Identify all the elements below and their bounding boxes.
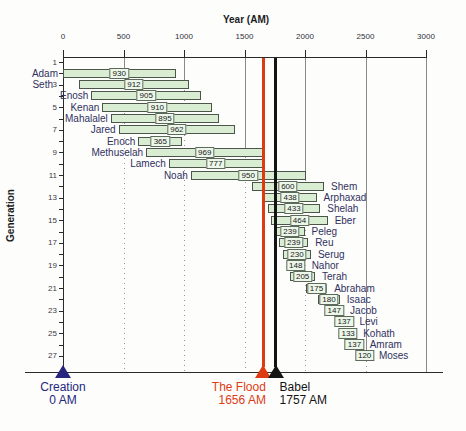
person-name-levi: Levi: [359, 316, 377, 327]
person-name-mahalalel: Mahalalel: [65, 113, 108, 124]
x-tick-label-1500: 1500: [225, 32, 265, 41]
gen-tick-label-19: 19: [33, 261, 57, 270]
person-name-moses: Moses: [379, 350, 408, 361]
person-lifespan-shem: 600: [278, 181, 297, 192]
creation-label: Creation0 AM: [23, 381, 103, 407]
x-tick-label-3000: 3000: [406, 32, 446, 41]
babel-line: [274, 58, 277, 367]
person-name-seth: Seth: [32, 79, 53, 90]
person-name-terah: Terah: [322, 271, 347, 282]
gen-tick-label-17: 17: [33, 238, 57, 247]
gen-tick-7: [59, 130, 63, 131]
gridline-dotted-1500: [245, 147, 246, 372]
gen-tick-label-7: 7: [33, 125, 57, 134]
gen-tick-19: [59, 265, 63, 266]
plot-area: 0500100015002000250030001357911131517192…: [0, 0, 466, 431]
person-name-amram: Amram: [370, 339, 402, 350]
person-name-reu: Reu: [315, 237, 333, 248]
gen-tick-label-23: 23: [33, 306, 57, 315]
x-tick-2000: [305, 50, 306, 58]
gen-tick-17: [59, 243, 63, 244]
gen-tick-label-5: 5: [33, 103, 57, 112]
gen-tick-label-1: 1: [33, 58, 57, 67]
person-name-abraham: Abraham: [334, 283, 375, 294]
babel-marker-triangle: [268, 365, 284, 378]
gen-tick-label-13: 13: [33, 193, 57, 202]
gen-tick-25: [59, 333, 63, 334]
person-name-jacob: Jacob: [350, 305, 377, 316]
gen-tick-11: [59, 175, 63, 176]
person-name-shem: Shem: [331, 181, 357, 192]
x-tick-label-1000: 1000: [164, 32, 204, 41]
the-flood-year-text: 1656 AM: [212, 394, 266, 407]
person-lifespan-seth: 912: [124, 79, 143, 90]
gen-tick-1: [59, 62, 63, 63]
y-axis-line: [63, 57, 64, 372]
gen-tick-15: [59, 220, 63, 221]
gen-tick-16: [59, 232, 63, 233]
person-name-lamech: Lamech: [130, 158, 166, 169]
gen-tick-14: [59, 209, 63, 210]
babel-label: Babel1757 AM: [280, 381, 327, 407]
person-lifespan-terah: 205: [293, 271, 312, 282]
x-tick-label-0: 0: [43, 32, 83, 41]
gridline-solid-3000: [426, 57, 427, 372]
person-name-enoch: Enoch: [107, 136, 135, 147]
x-tick-500: [124, 50, 125, 58]
person-lifespan-peleg: 239: [280, 226, 299, 237]
x-tick-label-2500: 2500: [346, 32, 386, 41]
gridline-solid-500: [124, 57, 125, 68]
gridline-solid-1000: [184, 57, 185, 80]
gen-tick-18: [59, 254, 63, 255]
gen-tick-6: [59, 119, 63, 120]
person-lifespan-arphaxad: 438: [280, 192, 299, 203]
person-name-methuselah: Methuselah: [91, 147, 143, 158]
person-name-jared: Jared: [91, 124, 116, 135]
person-lifespan-jared: 962: [167, 124, 186, 135]
person-name-peleg: Peleg: [312, 226, 338, 237]
the-flood-label: The Flood1656 AM: [212, 381, 266, 407]
person-lifespan-enosh: 905: [137, 90, 156, 101]
gen-tick-3: [59, 85, 63, 86]
person-lifespan-methuselah: 969: [195, 147, 214, 158]
gen-tick-13: [59, 198, 63, 199]
gen-tick-label-21: 21: [33, 284, 57, 293]
baseline: [25, 372, 443, 374]
lifespan-timeline-chart: Year (AM) Generation 0500100015002000250…: [0, 0, 466, 431]
person-name-kohath: Kohath: [363, 328, 395, 339]
person-name-adam: Adam: [32, 68, 58, 79]
person-name-noah: Noah: [164, 170, 188, 181]
person-lifespan-enoch: 365: [151, 136, 170, 147]
x-tick-2500: [366, 50, 367, 58]
gen-tick-26: [59, 345, 63, 346]
person-lifespan-adam: 930: [110, 68, 129, 79]
x-tick-label-2000: 2000: [285, 32, 325, 41]
the-flood-line: [262, 58, 265, 367]
gen-tick-label-27: 27: [33, 351, 57, 360]
person-lifespan-shelah: 433: [284, 203, 303, 214]
gen-tick-5: [59, 107, 63, 108]
person-lifespan-eber: 464: [290, 215, 309, 226]
person-name-shelah: Shelah: [327, 203, 358, 214]
x-tick-1500: [245, 50, 246, 58]
babel-year-text: 1757 AM: [280, 394, 327, 407]
x-tick-1000: [184, 50, 185, 58]
x-tick-0: [63, 50, 64, 58]
person-lifespan-abraham: 175: [307, 283, 326, 294]
person-lifespan-nahor: 148: [286, 260, 305, 271]
gen-tick-12: [59, 186, 63, 187]
person-lifespan-lamech: 777: [206, 158, 225, 169]
gen-tick-label-9: 9: [33, 148, 57, 157]
creation-marker-triangle: [55, 365, 71, 378]
x-tick-3000: [426, 50, 427, 58]
gen-tick-22: [59, 299, 63, 300]
gen-tick-21: [59, 288, 63, 289]
person-name-serug: Serug: [318, 249, 345, 260]
person-lifespan-reu: 239: [284, 237, 303, 248]
person-lifespan-noah: 950: [239, 170, 258, 181]
gen-tick-label-25: 25: [33, 329, 57, 338]
person-lifespan-jacob: 147: [325, 305, 344, 316]
gen-tick-24: [59, 322, 63, 323]
gridline-solid-1500: [245, 57, 246, 147]
person-lifespan-kohath: 133: [338, 328, 357, 339]
